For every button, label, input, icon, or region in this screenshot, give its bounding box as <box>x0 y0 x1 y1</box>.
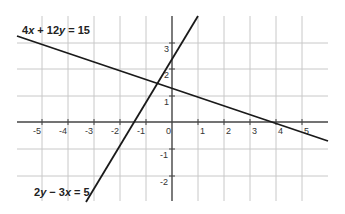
x-tick-label: 2 <box>226 126 231 136</box>
x-tick-label: -3 <box>85 126 93 136</box>
x-tick-label: -2 <box>111 126 119 136</box>
x-tick-label: 3 <box>252 126 257 136</box>
equation-label-line2: 2y − 3x = 5 <box>34 186 90 198</box>
y-tick-label: 1 <box>164 97 169 107</box>
y-tick-label: -2 <box>160 177 168 187</box>
line-2y-minus-3x-eq-5 <box>86 16 198 202</box>
x-tick-label: 0 <box>166 126 171 136</box>
x-tick-label: -1 <box>137 126 145 136</box>
x-tick-label: -5 <box>33 126 41 136</box>
x-tick-labels: -5 -4 -3 -2 -1 0 1 2 3 4 5 <box>33 126 309 136</box>
x-tick-label: -4 <box>59 126 67 136</box>
y-tick-label: 3 <box>164 44 169 54</box>
coordinate-graph: -5 -4 -3 -2 -1 0 1 2 3 4 5 3 2 1 -1 -2 4… <box>0 0 345 214</box>
y-tick-label: -1 <box>160 150 168 160</box>
equation-label-line1: 4x + 12y = 15 <box>22 24 90 36</box>
x-tick-label: 1 <box>200 126 205 136</box>
x-tick-label: 4 <box>278 126 283 136</box>
